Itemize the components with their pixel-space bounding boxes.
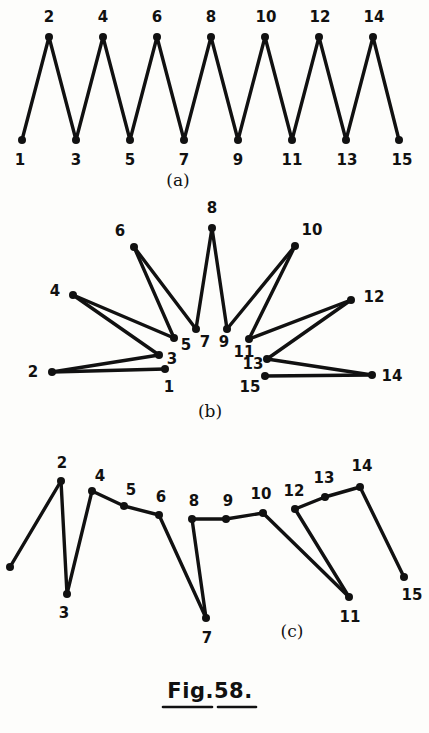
node-dot-8 bbox=[207, 33, 215, 41]
node-dot-4 bbox=[69, 291, 77, 299]
edge-12-13 bbox=[267, 300, 351, 359]
node-dot-14 bbox=[368, 371, 376, 379]
node-dot-12 bbox=[347, 296, 355, 304]
node-dot-13 bbox=[342, 136, 350, 144]
node-dot-8 bbox=[208, 224, 216, 232]
edge-8-9 bbox=[211, 37, 238, 140]
edge-7-8 bbox=[184, 37, 211, 140]
node-label-7: 7 bbox=[200, 333, 210, 351]
node-label-6: 6 bbox=[156, 488, 166, 506]
edge-14-15 bbox=[265, 375, 372, 376]
node-label-2: 2 bbox=[28, 363, 38, 381]
node-dot-3 bbox=[155, 351, 163, 359]
node-label-12: 12 bbox=[364, 288, 385, 306]
node-label-4: 4 bbox=[95, 467, 105, 485]
edge-3-4 bbox=[76, 37, 103, 140]
node-dot-5 bbox=[126, 136, 134, 144]
edge-1-2 bbox=[10, 481, 61, 567]
node-dot-15 bbox=[400, 573, 408, 581]
edge-7-8 bbox=[196, 228, 212, 329]
figure-root: 123456789101112131415(a)1234567891011121… bbox=[0, 0, 429, 733]
node-label-11: 11 bbox=[282, 151, 303, 169]
node-dot-14 bbox=[356, 483, 364, 491]
edge-2-3 bbox=[49, 37, 76, 140]
figure-caption-group: Fig.58. bbox=[163, 679, 256, 707]
node-label-12: 12 bbox=[284, 482, 305, 500]
panels-group: 123456789101112131415(a)1234567891011121… bbox=[0, 8, 422, 647]
node-dot-9 bbox=[222, 515, 230, 523]
node-label-5: 5 bbox=[125, 151, 135, 169]
node-label-12: 12 bbox=[310, 8, 331, 26]
node-dot-7 bbox=[202, 614, 210, 622]
node-dot-6 bbox=[155, 511, 163, 519]
edge-8-9 bbox=[212, 228, 227, 329]
node-label-10: 10 bbox=[302, 221, 323, 239]
node-dot-5 bbox=[170, 334, 178, 342]
node-label-2: 2 bbox=[57, 454, 67, 472]
node-label-5: 5 bbox=[126, 481, 136, 499]
panel-b-edges bbox=[52, 228, 372, 376]
node-label-6: 6 bbox=[115, 222, 125, 240]
node-dot-10 bbox=[291, 242, 299, 250]
node-label-8: 8 bbox=[207, 199, 217, 217]
panel-caption-b: (b) bbox=[198, 401, 222, 421]
figure-caption: Fig.58. bbox=[167, 679, 252, 703]
node-label-1: 1 bbox=[164, 378, 174, 396]
edge-13-14 bbox=[346, 37, 373, 140]
node-label-7: 7 bbox=[179, 151, 189, 169]
panel-a: 123456789101112131415(a) bbox=[15, 8, 413, 190]
edge-1-2 bbox=[22, 37, 49, 140]
node-label-10: 10 bbox=[251, 485, 272, 503]
node-label-3: 3 bbox=[167, 350, 177, 368]
node-dot-2 bbox=[48, 368, 56, 376]
edge-10-11 bbox=[265, 37, 292, 140]
node-label-6: 6 bbox=[152, 8, 162, 26]
node-label-15: 15 bbox=[240, 378, 261, 396]
edge-13-14 bbox=[325, 487, 360, 497]
edge-2-3 bbox=[61, 481, 67, 594]
node-dot-5 bbox=[120, 502, 128, 510]
node-dot-13 bbox=[321, 493, 329, 501]
node-label-9: 9 bbox=[233, 151, 243, 169]
edge-5-6 bbox=[124, 506, 159, 515]
node-dot-11 bbox=[345, 593, 353, 601]
node-label-14: 14 bbox=[382, 367, 403, 385]
node-dot-6 bbox=[130, 243, 138, 251]
node-label-8: 8 bbox=[206, 8, 216, 26]
node-dot-14 bbox=[369, 33, 377, 41]
node-label-9: 9 bbox=[223, 492, 233, 510]
node-dot-4 bbox=[99, 33, 107, 41]
node-label-5: 5 bbox=[181, 336, 191, 354]
figure-canvas: 123456789101112131415(a)1234567891011121… bbox=[0, 0, 429, 733]
node-label-3: 3 bbox=[59, 604, 69, 622]
panel-c: 123456789101112131415(c) bbox=[0, 454, 422, 647]
node-dot-15 bbox=[261, 372, 269, 380]
panel-a-nodes: 123456789101112131415 bbox=[15, 8, 413, 169]
node-dot-1 bbox=[6, 563, 14, 571]
node-label-3: 3 bbox=[71, 151, 81, 169]
node-dot-3 bbox=[63, 590, 71, 598]
node-dot-8 bbox=[188, 515, 196, 523]
node-dot-2 bbox=[45, 33, 53, 41]
edge-14-15 bbox=[360, 487, 404, 577]
node-label-8: 8 bbox=[189, 492, 199, 510]
node-label-4: 4 bbox=[50, 282, 60, 300]
node-dot-2 bbox=[57, 477, 65, 485]
node-label-7: 7 bbox=[202, 629, 212, 647]
node-label-13: 13 bbox=[337, 151, 358, 169]
node-dot-12 bbox=[315, 33, 323, 41]
node-dot-4 bbox=[88, 487, 96, 495]
node-label-13: 13 bbox=[314, 469, 335, 487]
edge-4-5 bbox=[103, 37, 130, 140]
node-dot-12 bbox=[291, 505, 299, 513]
panel-caption-a: (a) bbox=[166, 170, 189, 190]
node-label-9: 9 bbox=[219, 333, 229, 351]
panel-b: 123456789101112131415(b) bbox=[28, 199, 403, 421]
node-dot-9 bbox=[234, 136, 242, 144]
panel-caption-c: (c) bbox=[281, 621, 304, 641]
edge-6-7 bbox=[157, 37, 184, 140]
node-label-4: 4 bbox=[98, 8, 108, 26]
edge-9-10 bbox=[238, 37, 265, 140]
node-label-14: 14 bbox=[364, 8, 385, 26]
node-label-15: 15 bbox=[392, 151, 413, 169]
